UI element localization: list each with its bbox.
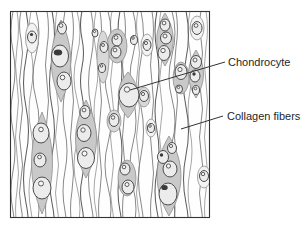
collagen-fibers-label: Collagen fibers <box>227 110 301 122</box>
chondrocyte-label: Chondrocyte <box>228 56 290 68</box>
chondrocyte-target-cell <box>119 83 139 107</box>
fibrocartilage-diagram: Chondrocyte Collagen fibers <box>0 0 308 233</box>
fibrocartilage-figure: Chondrocyte Collagen fibers <box>0 0 308 233</box>
